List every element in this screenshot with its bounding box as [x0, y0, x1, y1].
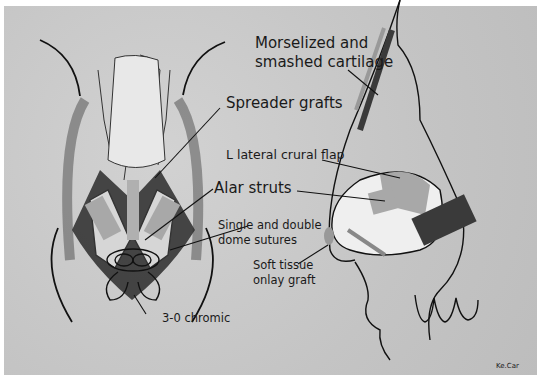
label-soft-tissue-line2: onlay graft: [253, 274, 315, 287]
label-dome-sutures: Single and double: [218, 219, 322, 232]
label-alar-struts: Alar struts: [214, 180, 292, 197]
label-chromic: 3-0 chromic: [162, 312, 230, 325]
label-morselized: Morselized and: [255, 35, 368, 52]
label-dome-sutures-line2: dome sutures: [218, 234, 297, 247]
frontal-view: [40, 40, 225, 322]
label-spreader-grafts: Spreader grafts: [226, 95, 343, 112]
label-morselized-line2: smashed cartilage: [255, 54, 393, 71]
label-soft-tissue: Soft tissue: [253, 259, 313, 272]
label-lateral-crural-flap: L lateral crural flap: [226, 148, 345, 162]
artist-credit: Ke.Car: [496, 362, 519, 370]
illustration-canvas: Morselized and smashed cartilage Spreade…: [0, 0, 539, 377]
